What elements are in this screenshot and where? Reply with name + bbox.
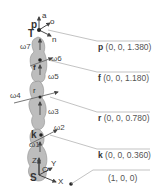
- point-r: [39, 96, 42, 99]
- tool-origin-label-T: T: [28, 29, 34, 39]
- coord-f-value: (0, 0, 1.180): [103, 73, 149, 83]
- point-label-f: f: [33, 64, 36, 72]
- joint-label-w2: ω2: [54, 124, 65, 132]
- joint-label-w4: ω4: [10, 92, 21, 100]
- link-forearm: [29, 81, 46, 130]
- joint-label-w7: ω7: [20, 43, 31, 51]
- point-k: [39, 133, 43, 137]
- coord-k-value: (0, 0, 0.360): [105, 150, 151, 160]
- coord-p-value: (0, 0, 1.380): [106, 42, 152, 52]
- robot-arm-diagram: [0, 0, 164, 195]
- coord-k-name: k: [98, 150, 103, 160]
- leader-lines: [48, 30, 150, 184]
- point-label-k: k: [31, 130, 37, 140]
- coord-x-unit-value: (1, 0, 0): [108, 173, 137, 183]
- joint-label-w5: ω5: [48, 73, 59, 81]
- base-origin-label-S: S: [30, 173, 37, 183]
- coord-r-name: r: [98, 113, 101, 123]
- axis-label-a: a: [42, 12, 46, 20]
- arm-links: [28, 37, 47, 181]
- axis-label-n: n: [52, 36, 56, 44]
- coord-p: p (0, 0, 1.380): [98, 43, 151, 52]
- coord-f: f (0, 0, 1.180): [98, 74, 149, 83]
- coord-r-value: (0, 0, 0.780): [104, 113, 150, 123]
- joint-label-w1: ω1: [29, 141, 40, 149]
- coord-r: r (0, 0, 0.780): [98, 114, 150, 123]
- coord-f-name: f: [98, 73, 101, 83]
- coord-x-unit: (1, 0, 0): [108, 174, 137, 183]
- joint-label-w3: ω3: [48, 108, 59, 116]
- base-axis-label-Z: Z: [32, 157, 37, 165]
- point-f: [38, 58, 42, 62]
- point-label-r: r: [33, 87, 36, 95]
- base-center-label-O: O: [42, 166, 48, 174]
- coord-k: k (0, 0, 0.360): [98, 151, 151, 160]
- base-axis-label-X: X: [58, 178, 63, 186]
- tool-origin-point: [37, 28, 41, 32]
- joint-label-w6: ω6: [51, 55, 62, 63]
- base-axis-label-Y: Y: [51, 160, 56, 168]
- axis-label-o: o: [50, 18, 54, 26]
- coord-p-name: p: [98, 42, 103, 52]
